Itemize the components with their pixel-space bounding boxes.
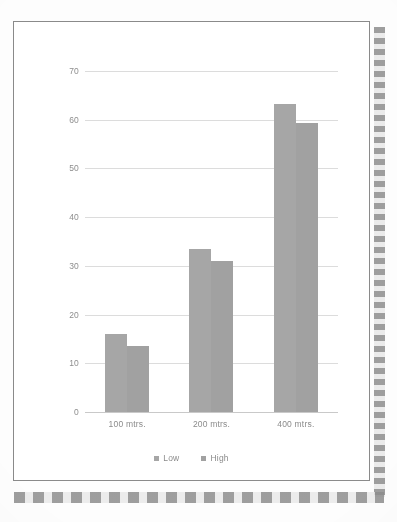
y-tick-label: 70 [69, 66, 79, 76]
x-tick-label: 100 mtrs. [109, 419, 146, 429]
plot-area [85, 71, 338, 412]
legend-swatch-icon [154, 456, 159, 461]
y-tick-label: 30 [69, 261, 79, 271]
y-tick-label: 50 [69, 163, 79, 173]
bars-layer [85, 71, 338, 412]
bar-group [85, 71, 169, 412]
bar-low [274, 104, 296, 412]
bar-high [127, 346, 149, 412]
y-tick-label: 60 [69, 115, 79, 125]
bar-chart: 010203040506070 100 mtrs.200 mtrs.400 mt… [13, 21, 370, 481]
y-axis: 010203040506070 [53, 71, 79, 412]
legend-item-high[interactable]: High [201, 453, 228, 463]
bar-group [169, 71, 253, 412]
legend-item-low[interactable]: Low [154, 453, 179, 463]
y-tick-label: 20 [69, 310, 79, 320]
legend-label: High [210, 453, 228, 463]
chart-legend: LowHigh [13, 453, 370, 463]
legend-swatch-icon [201, 456, 206, 461]
legend-label: Low [163, 453, 179, 463]
y-tick-label: 40 [69, 212, 79, 222]
bar-low [105, 334, 127, 412]
bar-high [296, 123, 318, 412]
scanned-page: 010203040506070 100 mtrs.200 mtrs.400 mt… [0, 0, 397, 522]
bar-group [254, 71, 338, 412]
x-tick-label: 400 mtrs. [277, 419, 314, 429]
binding-edge-right [374, 27, 385, 497]
x-tick-label: 200 mtrs. [193, 419, 230, 429]
bar-low [189, 249, 211, 412]
binding-edge-bottom [14, 492, 384, 503]
y-tick-label: 0 [74, 407, 79, 417]
gridline-0 [85, 412, 338, 413]
y-tick-label: 10 [69, 358, 79, 368]
bar-high [211, 261, 233, 412]
x-axis: 100 mtrs.200 mtrs.400 mtrs. [85, 419, 338, 435]
